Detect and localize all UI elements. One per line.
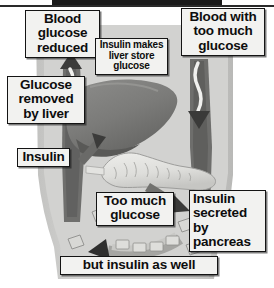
callout-blood-glucose-reduced: Blood glucose reduced — [25, 10, 100, 58]
callout-insulin: Insulin — [17, 148, 70, 167]
callout-blood-with-too-much-glucose: Blood with too much glucose — [181, 8, 265, 56]
callout-too-much-glucose: Too much glucose — [96, 192, 174, 226]
insulin-glucose-diagram: Blood glucose reduced Blood with too muc… — [0, 0, 274, 288]
callout-insulin-secreted-by-pancreas: Insulin secreted by pancreas — [189, 190, 266, 252]
callout-insulin-makes-liver-store-glucose: Insulin makes liver store glucose — [95, 38, 168, 75]
callout-glucose-removed-by-liver: Glucose removed by liver — [7, 76, 85, 124]
callout-but-insulin-as-well: but insulin as well — [60, 256, 218, 275]
